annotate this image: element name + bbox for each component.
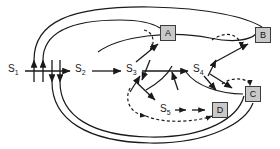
terminal-label-a: A xyxy=(165,29,171,38)
dashed-d-to-s3 xyxy=(146,116,212,121)
state-subscript-s5: 5 xyxy=(167,109,171,116)
state-label-s3: S3 xyxy=(126,64,137,76)
arc-a-to-s1 xyxy=(43,20,160,60)
dashed-s4-to-b xyxy=(212,34,242,48)
state-label-s2: S2 xyxy=(75,64,86,76)
state-subscript-s3: 3 xyxy=(133,69,137,76)
terminal-label-d: D xyxy=(217,106,224,115)
curve-s3-up-to-s4 xyxy=(146,66,172,90)
state-letter-s2: S xyxy=(75,63,82,74)
dashed-s3-to-a xyxy=(144,30,153,50)
terminal-label-c: C xyxy=(250,90,257,99)
state-label-s4: S4 xyxy=(193,64,204,76)
state-letter-s3: S xyxy=(126,63,133,74)
terminal-label-b: B xyxy=(260,31,266,40)
state-letter-s5: S xyxy=(160,103,167,114)
terminal-box-c: C xyxy=(245,86,261,102)
edge-s4-to-b-solid xyxy=(215,44,248,62)
edge-s3-to-s5-solid xyxy=(134,80,155,100)
terminal-box-a: A xyxy=(160,25,176,41)
state-subscript-s1: 1 xyxy=(15,69,19,76)
state-subscript-s2: 2 xyxy=(82,69,86,76)
state-label-s1: S1 xyxy=(8,64,19,76)
diagram-canvas: S1 S2 S3 S4 S5 A B C D xyxy=(0,0,280,149)
state-subscript-s4: 4 xyxy=(200,69,204,76)
state-letter-s4: S xyxy=(193,63,200,74)
edge-s3-down-left xyxy=(142,60,150,80)
edge-up-into-s4-line xyxy=(172,72,178,90)
arc-s4-region-to-b xyxy=(98,34,256,52)
edge-into-s4-up xyxy=(208,60,216,76)
state-letter-s1: S xyxy=(8,63,15,74)
diagram-graphics xyxy=(0,0,280,149)
edge-s3-to-a-solid xyxy=(136,44,158,62)
s4-branch-edges xyxy=(172,44,248,90)
terminal-box-b: B xyxy=(255,27,271,43)
state-label-s5: S5 xyxy=(160,104,171,116)
terminal-box-d: D xyxy=(212,102,228,118)
